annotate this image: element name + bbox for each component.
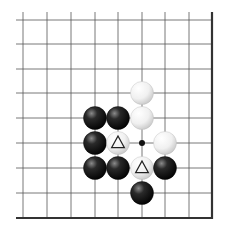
point-dot-marker <box>139 140 145 146</box>
white-stone <box>154 132 177 155</box>
black-stone <box>154 157 177 180</box>
white-stone <box>131 107 154 130</box>
black-stone <box>84 107 107 130</box>
black-stone <box>84 157 107 180</box>
black-stone <box>131 182 154 205</box>
black-stone <box>84 132 107 155</box>
board-markers <box>139 140 145 146</box>
white-stone <box>131 157 154 180</box>
white-stone <box>131 82 154 105</box>
black-stone <box>107 157 130 180</box>
white-stone <box>107 132 130 155</box>
black-stone <box>107 107 130 130</box>
go-board <box>0 0 226 236</box>
